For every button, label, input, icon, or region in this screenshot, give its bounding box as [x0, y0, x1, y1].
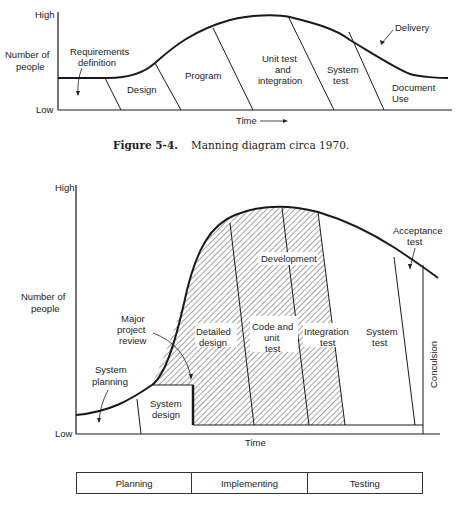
phase-code-unit-test: Code and — [252, 321, 293, 332]
phase-requirements: Requirements — [70, 46, 129, 57]
manning-diagrams: High Low Number of people Requirements d… — [0, 0, 456, 511]
svg-text:test: test — [333, 75, 349, 86]
caption-number: Figure 5-4. — [113, 139, 178, 151]
y-high-label: High — [35, 9, 55, 20]
time-label: Time — [236, 115, 257, 126]
svg-text:and: and — [275, 64, 291, 75]
figure-1: High Low Number of people Requirements d… — [5, 9, 452, 151]
svg-text:design: design — [152, 409, 180, 420]
phase-system-design: System — [150, 398, 182, 409]
phase-bar-planning: Planning — [77, 473, 192, 493]
svg-text:design: design — [199, 337, 227, 348]
svg-text:test: test — [265, 343, 281, 354]
svg-text:integration: integration — [258, 75, 302, 86]
acceptance-test-annotation: Acceptance — [393, 225, 443, 236]
y-axis-label: Number of — [21, 291, 66, 302]
svg-text:planning: planning — [92, 376, 128, 387]
y-low-label: Low — [55, 428, 73, 439]
phase-bar-testing: Testing — [308, 473, 422, 493]
phase-detailed-design: Detailed — [196, 326, 231, 337]
phase-conclusion: Conculsion — [428, 341, 439, 388]
y-axis-label: Number of — [5, 49, 50, 60]
svg-text:project: project — [117, 324, 146, 335]
svg-text:definition: definition — [78, 57, 116, 68]
delivery-annotation: Delivery — [395, 22, 430, 33]
figure-2: High Low Number of people System plannin… — [21, 182, 443, 448]
phase-system-planning: System — [95, 364, 127, 375]
svg-text:test: test — [320, 337, 336, 348]
y-high-label: High — [55, 182, 75, 193]
y-low-label: Low — [36, 104, 54, 115]
phase-system-test: System — [327, 64, 359, 75]
phase-bar-implementing: Implementing — [192, 473, 307, 493]
phase-unit-test: Unit test — [262, 53, 297, 64]
time-label: Time — [245, 437, 266, 448]
phase-program: Program — [185, 70, 222, 81]
svg-text:review: review — [119, 335, 147, 346]
svg-text:unit: unit — [264, 332, 280, 343]
svg-text:Use: Use — [392, 93, 409, 104]
svg-text:people: people — [31, 303, 60, 314]
phase-design: Design — [127, 84, 157, 95]
major-review-annotation: Major — [121, 313, 145, 324]
phase-document-use: Document — [392, 82, 436, 93]
svg-text:test: test — [372, 337, 388, 348]
caption-text: Manning diagram circa 1970. — [191, 139, 349, 151]
svg-text:people: people — [16, 61, 45, 72]
phase-integration-test: Integration — [304, 326, 349, 337]
development-label: Development — [261, 253, 317, 264]
phase-system-test: System — [366, 326, 398, 337]
svg-text:test: test — [407, 236, 423, 247]
phase-bar: Planning Implementing Testing — [76, 472, 423, 494]
